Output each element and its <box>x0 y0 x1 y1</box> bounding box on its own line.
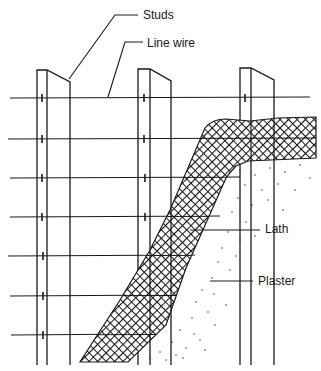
lath-mesh <box>0 0 321 371</box>
label-line-wire: Line wire <box>147 37 195 49</box>
leader-studs <box>69 15 138 79</box>
label-lath: Lath <box>265 223 288 235</box>
label-studs: Studs <box>143 9 174 21</box>
label-plaster: Plaster <box>258 275 295 287</box>
lath-plaster-diagram <box>0 0 321 371</box>
stud-3 <box>240 68 274 365</box>
